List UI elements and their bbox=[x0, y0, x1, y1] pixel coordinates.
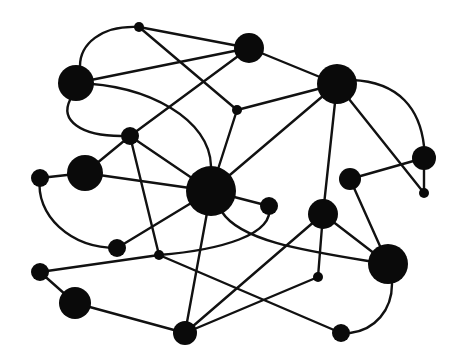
graph-node-n5 bbox=[232, 105, 242, 115]
node-layer bbox=[31, 22, 436, 345]
network-diagram bbox=[0, 0, 462, 361]
graph-node-n9 bbox=[186, 166, 236, 216]
graph-edge bbox=[76, 48, 249, 83]
graph-node-n21 bbox=[173, 321, 197, 345]
graph-node-n16 bbox=[154, 250, 164, 260]
graph-node-n22 bbox=[332, 324, 350, 342]
graph-node-n2 bbox=[234, 33, 264, 63]
graph-edge bbox=[350, 284, 392, 333]
graph-node-n1 bbox=[134, 22, 144, 32]
graph-node-n15 bbox=[108, 239, 126, 257]
graph-edge bbox=[80, 27, 139, 66]
graph-node-n11 bbox=[412, 146, 436, 170]
graph-node-n3 bbox=[58, 65, 94, 101]
graph-node-n6 bbox=[121, 127, 139, 145]
graph-node-n20 bbox=[59, 287, 91, 319]
graph-edge bbox=[185, 277, 318, 333]
graph-node-n7 bbox=[67, 155, 103, 191]
graph-node-n4 bbox=[317, 64, 357, 104]
graph-node-n8 bbox=[31, 169, 49, 187]
graph-node-n19 bbox=[313, 272, 323, 282]
graph-node-n14 bbox=[308, 199, 338, 229]
graph-edge bbox=[67, 100, 121, 136]
graph-node-n13 bbox=[260, 197, 278, 215]
graph-node-n17 bbox=[31, 263, 49, 281]
graph-edge bbox=[40, 255, 159, 272]
graph-node-n10 bbox=[339, 168, 361, 190]
graph-edge bbox=[139, 27, 249, 48]
graph-edge bbox=[352, 80, 424, 146]
graph-edge bbox=[76, 83, 211, 166]
graph-node-n18 bbox=[368, 244, 408, 284]
graph-node-n12 bbox=[419, 188, 429, 198]
graph-edge bbox=[75, 303, 185, 333]
